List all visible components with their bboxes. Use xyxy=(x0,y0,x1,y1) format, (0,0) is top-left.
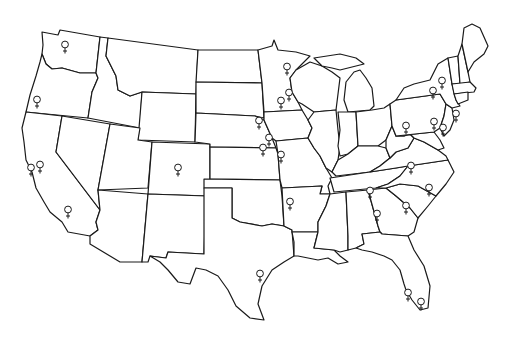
female-symbol-icon xyxy=(60,40,70,54)
female-symbol-icon xyxy=(401,121,411,135)
state-north-dakota xyxy=(196,50,262,83)
female-symbol-icon xyxy=(255,269,265,283)
female-symbol-icon xyxy=(416,297,426,311)
female-symbol-icon xyxy=(63,205,73,219)
female-symbol-icon xyxy=(258,143,268,157)
female-symbol-icon xyxy=(365,186,375,200)
female-symbol-icon xyxy=(401,201,411,215)
female-symbol-icon xyxy=(451,109,461,123)
female-symbol-icon xyxy=(276,150,286,164)
female-symbol-icon xyxy=(403,288,413,302)
state-south-dakota xyxy=(196,82,264,118)
female-symbol-icon xyxy=(35,160,45,174)
female-symbol-icon xyxy=(424,183,434,197)
us-map xyxy=(0,0,518,350)
state-kansas xyxy=(210,147,280,180)
female-symbol-icon xyxy=(428,86,438,100)
state-arizona xyxy=(90,190,148,262)
female-symbol-icon xyxy=(372,209,382,223)
female-symbol-icon xyxy=(437,76,447,90)
female-symbol-icon xyxy=(276,96,286,110)
state-washington xyxy=(42,30,100,73)
female-symbol-icon xyxy=(438,123,448,137)
female-symbol-icon xyxy=(32,95,42,109)
female-symbol-icon xyxy=(406,161,416,175)
female-symbol-icon xyxy=(173,163,183,177)
female-symbol-icon xyxy=(285,197,295,211)
state-wyoming xyxy=(138,92,196,142)
state-maine xyxy=(462,24,488,72)
state-montana xyxy=(106,38,198,96)
female-symbol-icon xyxy=(282,62,292,76)
female-symbol-icon xyxy=(254,116,264,130)
